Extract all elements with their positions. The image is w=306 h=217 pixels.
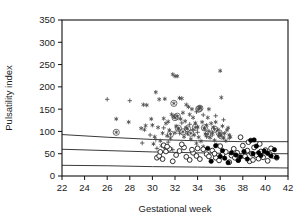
x-tick-label: 24 bbox=[79, 182, 90, 193]
x-tick-label: 30 bbox=[147, 182, 158, 193]
y-axis-ticks bbox=[58, 20, 62, 176]
data-point-open-circle bbox=[207, 154, 212, 159]
data-point-open-circle bbox=[212, 151, 217, 156]
y-tick-label: 100 bbox=[39, 126, 55, 137]
data-point-open-circle bbox=[190, 147, 195, 152]
data-point-filled-circle bbox=[254, 144, 258, 148]
data-point-filled-circle bbox=[218, 154, 222, 158]
data-point-open-circle bbox=[251, 158, 256, 163]
data-point-filled-circle bbox=[229, 151, 233, 155]
y-tick-label: 350 bbox=[39, 14, 55, 25]
data-point-open-circle bbox=[187, 158, 192, 163]
x-tick-label: 42 bbox=[283, 182, 294, 193]
y-tick-label: 250 bbox=[39, 59, 55, 70]
data-point-filled-circle bbox=[275, 155, 279, 159]
y-tick-label: 150 bbox=[39, 104, 55, 115]
data-point-open-circle bbox=[158, 150, 163, 155]
data-point-open-circle bbox=[170, 159, 175, 164]
data-point-filled-circle bbox=[245, 157, 249, 161]
data-point-open-circle bbox=[160, 157, 165, 162]
data-point-filled-circle bbox=[252, 138, 256, 142]
x-tick-label: 26 bbox=[102, 182, 113, 193]
scatter-chart-figure: 2224262830323436384042 05010015020025030… bbox=[0, 0, 306, 217]
data-point-open-circle bbox=[240, 143, 245, 148]
data-point-filled-circle bbox=[226, 160, 230, 164]
y-axis-title: Pulsatility index bbox=[3, 65, 14, 131]
data-point-open-circle bbox=[197, 157, 202, 162]
data-point-filled-circle bbox=[236, 158, 240, 162]
chart-canvas: 2224262830323436384042 05010015020025030… bbox=[0, 0, 306, 217]
x-tick-label: 38 bbox=[238, 182, 249, 193]
y-axis-tick-labels: 050100150200250300350 bbox=[39, 14, 55, 181]
data-point-filled-circle bbox=[242, 149, 246, 153]
data-point-filled-circle bbox=[209, 159, 213, 163]
y-tick-label: 50 bbox=[44, 148, 55, 159]
data-point-filled-circle bbox=[206, 146, 210, 150]
x-tick-label: 36 bbox=[215, 182, 226, 193]
data-point-open-circle bbox=[195, 146, 200, 151]
data-point-filled-circle bbox=[269, 154, 273, 158]
x-axis-ticks bbox=[62, 176, 288, 180]
x-tick-label: 32 bbox=[170, 182, 181, 193]
data-point-filled-circle bbox=[223, 156, 227, 160]
x-axis-tick-labels: 2224262830323436384042 bbox=[57, 182, 294, 193]
data-point-open-circle bbox=[218, 144, 223, 149]
y-tick-label: 300 bbox=[39, 37, 55, 48]
data-point-open-circle bbox=[201, 147, 206, 152]
data-point-filled-circle bbox=[234, 153, 238, 157]
data-point-filled-circle bbox=[272, 148, 276, 152]
data-point-open-circle bbox=[177, 149, 182, 154]
x-tick-label: 40 bbox=[260, 182, 271, 193]
data-point-open-circle bbox=[165, 144, 170, 149]
data-point-filled-circle bbox=[220, 148, 224, 152]
data-point-filled-circle bbox=[259, 153, 263, 157]
x-tick-label: 22 bbox=[57, 182, 68, 193]
data-point-open-circle bbox=[179, 142, 184, 147]
data-point-filled-circle bbox=[213, 143, 217, 147]
y-tick-label: 0 bbox=[50, 170, 55, 181]
data-point-filled-circle bbox=[251, 152, 255, 156]
data-point-open-circle bbox=[174, 153, 179, 158]
y-tick-label: 200 bbox=[39, 81, 55, 92]
data-point-open-circle bbox=[238, 135, 243, 140]
x-axis-title: Gestational week bbox=[139, 203, 212, 214]
x-tick-label: 34 bbox=[192, 182, 203, 193]
data-point-open-circle bbox=[265, 158, 270, 163]
x-tick-label: 28 bbox=[125, 182, 136, 193]
